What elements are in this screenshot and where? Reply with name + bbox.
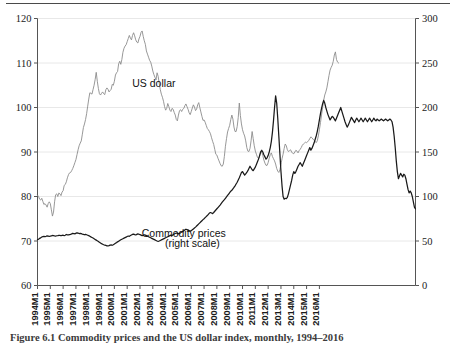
- right-tick-label: 150: [422, 147, 438, 158]
- figure-container: 60708090100110120 050100150200250300 199…: [0, 0, 456, 345]
- right-tick-label: 200: [422, 102, 438, 113]
- left-tick-label: 120: [16, 13, 32, 24]
- right-axis-ticks: [416, 19, 420, 286]
- x-tick-label: 1998M1: [81, 293, 91, 326]
- series-annotation: US dollar: [132, 77, 176, 89]
- x-tick-label: 2001M1: [119, 293, 129, 326]
- series-us-dollar: [38, 31, 339, 216]
- right-tick-label: 250: [422, 58, 438, 69]
- x-tick-label: 2016M1: [311, 293, 321, 326]
- left-tick-label: 70: [21, 236, 32, 247]
- right-tick-label: 50: [422, 236, 433, 247]
- left-axis-ticks: [34, 19, 38, 286]
- series-commodity-prices: [38, 96, 416, 246]
- x-tick-label: 2000M1: [106, 293, 116, 326]
- left-tick-label: 80: [21, 191, 32, 202]
- chart-svg: 60708090100110120 050100150200250300 199…: [0, 0, 456, 345]
- series-annotations: US dollarCommodity prices(right scale): [132, 77, 226, 249]
- x-tick-label: 1995M1: [42, 293, 52, 326]
- left-tick-label: 100: [16, 102, 32, 113]
- x-tick-label: 2005M1: [170, 293, 180, 326]
- x-tick-label: 2004M1: [158, 293, 168, 326]
- right-tick-label: 100: [422, 191, 438, 202]
- x-tick-label: 1994M1: [30, 293, 40, 326]
- x-tick-label: 1997M1: [68, 293, 78, 326]
- x-tick-label: 2002M1: [132, 293, 142, 326]
- left-axis-labels: 60708090100110120: [16, 13, 32, 291]
- x-tick-label: 1996M1: [55, 293, 65, 326]
- right-axis-labels: 050100150200250300: [422, 13, 438, 291]
- right-tick-label: 300: [422, 13, 438, 24]
- x-tick-label: 2014M1: [286, 293, 296, 326]
- x-tick-label: 2009M1: [222, 293, 232, 326]
- x-tick-label: 2006M1: [183, 293, 193, 326]
- bottom-axis-ticks: [38, 286, 320, 290]
- x-tick-label: 2010M1: [235, 293, 245, 326]
- x-tick-label: 2007M1: [196, 293, 206, 326]
- x-tick-label: 1999M1: [94, 293, 104, 326]
- x-tick-label: 2008M1: [209, 293, 219, 326]
- series-annotation: (right scale): [165, 237, 220, 249]
- left-tick-label: 110: [16, 58, 31, 69]
- x-tick-label: 2012M1: [260, 293, 270, 326]
- left-tick-label: 90: [21, 147, 32, 158]
- figure-caption: Figure 6.1 Commodity prices and the US d…: [10, 332, 450, 343]
- left-tick-label: 60: [21, 280, 32, 291]
- x-tick-label: 2011M1: [247, 293, 257, 326]
- right-tick-label: 0: [422, 280, 427, 291]
- x-tick-label: 2003M1: [145, 293, 155, 326]
- x-tick-label: 2013M1: [273, 293, 283, 326]
- x-tick-label: 2015M1: [299, 293, 309, 326]
- bottom-axis-labels: 1994M11995M11996M11997M11998M11999M12000…: [30, 293, 322, 326]
- gridlines-group: [38, 19, 416, 242]
